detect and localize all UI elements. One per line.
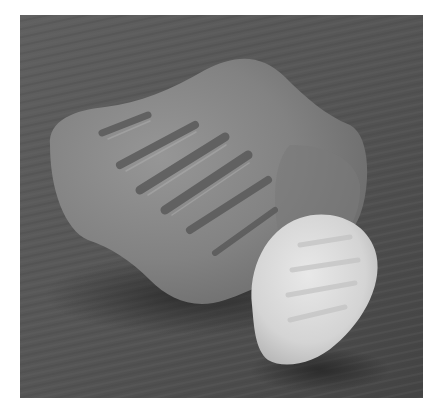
sea-glass-photo — [20, 15, 423, 398]
photograph: Two pieces of frosted sea glass with par… — [20, 15, 423, 398]
